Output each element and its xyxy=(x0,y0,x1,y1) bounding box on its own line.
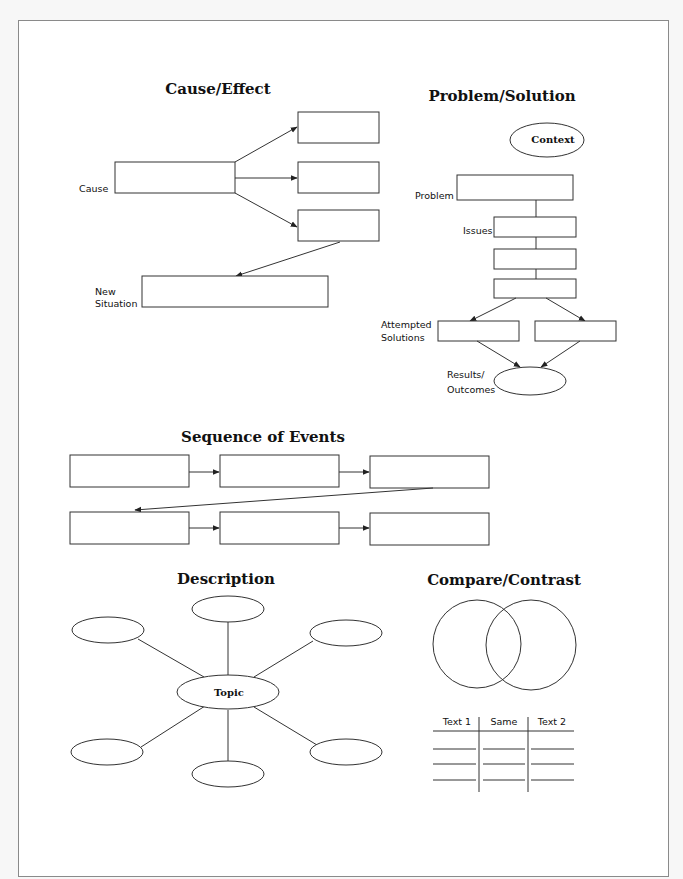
description-title: Description xyxy=(177,570,275,588)
problem-label: Problem xyxy=(415,190,454,201)
sequence-box-6[interactable] xyxy=(370,513,489,545)
arrow-issue-to-solution-1 xyxy=(470,298,516,321)
effect-box-3[interactable] xyxy=(298,210,379,241)
attempted-solution-box-1[interactable] xyxy=(438,321,519,341)
venn-circle-right[interactable] xyxy=(486,600,576,690)
arrow-seq-3-4 xyxy=(135,488,433,510)
venn-circle-left[interactable] xyxy=(433,600,521,688)
spoke-bottom-right xyxy=(254,707,317,745)
sequence-box-1[interactable] xyxy=(70,455,189,487)
problem-box[interactable] xyxy=(457,175,573,200)
compare-contrast-diagram: Compare/Contrast Text 1 Same Text 2 xyxy=(427,571,581,792)
arrow-cause-to-effect-3 xyxy=(235,193,297,227)
problem-solution-diagram: Problem/Solution Context Problem Issues … xyxy=(381,87,616,395)
context-label: Context xyxy=(531,134,575,145)
graphic-organizers: Cause/Effect Cause New Situation Problem… xyxy=(0,0,683,879)
spoke-top-right xyxy=(254,641,313,677)
attempted-solution-box-2[interactable] xyxy=(535,321,616,341)
arrow-issue-to-solution-2 xyxy=(546,298,585,321)
arrow-solution-1-to-results xyxy=(477,341,520,367)
description-ellipse-bottom-right[interactable] xyxy=(310,739,382,765)
issue-box-2[interactable] xyxy=(494,249,576,269)
new-situation-label-line2: Situation xyxy=(95,298,137,309)
description-ellipse-top-right[interactable] xyxy=(310,620,382,646)
description-ellipse-bottom[interactable] xyxy=(192,761,264,787)
sequence-box-2[interactable] xyxy=(220,455,339,487)
results-label-line2: Outcomes xyxy=(447,384,495,395)
table-header-text-2: Text 2 xyxy=(537,716,566,727)
problem-solution-title: Problem/Solution xyxy=(428,87,575,105)
effect-box-1[interactable] xyxy=(298,112,379,143)
sequence-title: Sequence of Events xyxy=(181,428,345,446)
issue-box-3[interactable] xyxy=(494,279,576,298)
new-situation-box[interactable] xyxy=(142,276,328,307)
description-ellipse-bottom-left[interactable] xyxy=(71,739,143,765)
arrow-cause-to-effect-1 xyxy=(235,127,297,162)
description-ellipse-top-left[interactable] xyxy=(72,617,144,643)
sequence-box-3[interactable] xyxy=(370,456,489,488)
issues-label: Issues xyxy=(463,225,493,236)
effect-box-2[interactable] xyxy=(298,162,379,193)
attempted-solutions-label-line1: Attempted xyxy=(381,319,432,330)
results-ellipse[interactable] xyxy=(494,367,566,395)
attempted-solutions-label-line2: Solutions xyxy=(381,332,425,343)
new-situation-label-line1: New xyxy=(95,286,116,297)
issue-box-1[interactable] xyxy=(494,217,576,237)
sequence-box-5[interactable] xyxy=(220,512,339,544)
arrow-solution-2-to-results xyxy=(541,341,580,367)
description-diagram: Description Topic xyxy=(71,570,382,787)
topic-label: Topic xyxy=(214,687,244,698)
cause-label: Cause xyxy=(79,183,108,194)
sequence-of-events-diagram: Sequence of Events xyxy=(70,428,489,545)
results-label-line1: Results/ xyxy=(447,369,485,380)
table-header-text-1: Text 1 xyxy=(442,716,471,727)
compare-table: Text 1 Same Text 2 xyxy=(433,716,574,792)
compare-contrast-title: Compare/Contrast xyxy=(427,571,581,589)
spoke-top-left xyxy=(138,639,204,677)
spoke-bottom-left xyxy=(141,706,205,747)
arrow-effect-to-new-situation xyxy=(236,242,340,276)
cause-effect-title: Cause/Effect xyxy=(165,80,270,98)
table-header-same: Same xyxy=(491,716,518,727)
sequence-box-4[interactable] xyxy=(70,512,189,544)
description-ellipse-top[interactable] xyxy=(192,596,264,622)
cause-box[interactable] xyxy=(115,162,235,193)
cause-effect-diagram: Cause/Effect Cause New Situation xyxy=(79,80,379,309)
